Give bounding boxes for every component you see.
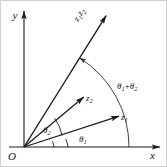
angle-label-theta1-sub: 1 [83,138,86,145]
figure-canvas: y x O z1 z2 z1z2 θ1 [0,0,167,167]
y-axis-label: y [12,9,18,21]
vector-z1-label-sub: 1 [125,116,128,123]
x-axis-label: x [149,149,155,161]
origin-label: O [8,150,16,162]
vector-diagram-svg: y x O z1 z2 z1z2 θ1 [0,0,167,167]
